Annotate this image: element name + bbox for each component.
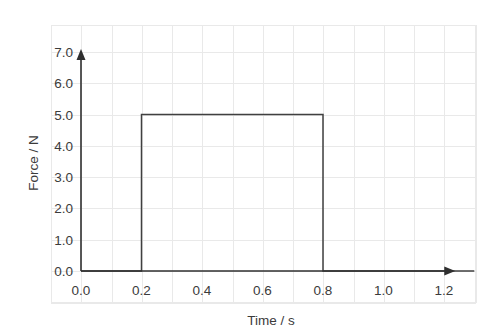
y-tick-label: 4.0 <box>54 139 73 154</box>
chart-canvas: 0.00.20.40.60.81.01.2 0.01.02.03.04.05.0… <box>0 0 499 334</box>
y-tick-label: 0.0 <box>54 264 73 279</box>
x-tick-label: 0.4 <box>193 283 212 298</box>
x-tick-label: 0.2 <box>132 283 151 298</box>
force-time-graph-figure: 0.00.20.40.60.81.01.2 0.01.02.03.04.05.0… <box>0 0 499 334</box>
y-tick-label: 5.0 <box>54 108 73 123</box>
x-tick-label: 0.0 <box>72 283 91 298</box>
x-tick-label: 1.2 <box>435 283 454 298</box>
y-tick-label: 1.0 <box>54 233 73 248</box>
y-tick-label: 7.0 <box>54 45 73 60</box>
x-tick-label: 0.8 <box>314 283 333 298</box>
y-tick-label: 6.0 <box>54 76 73 91</box>
x-axis-title: Time / s <box>247 313 295 328</box>
y-axis-title: Force / N <box>26 135 41 191</box>
y-tick-label: 3.0 <box>54 170 73 185</box>
x-tick-label: 0.6 <box>253 283 272 298</box>
y-tick-label: 2.0 <box>54 201 73 216</box>
x-tick-label: 1.0 <box>374 283 393 298</box>
